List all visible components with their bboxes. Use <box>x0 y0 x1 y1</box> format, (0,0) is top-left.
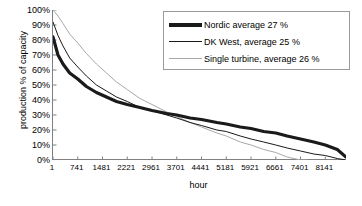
y-tick-label: 20% <box>16 126 50 135</box>
duration-curve-chart: production % of capacity 100%90%80%70%60… <box>0 0 362 206</box>
x-tick-label: 8141 <box>315 163 333 173</box>
x-tick-label: 7401 <box>291 163 309 173</box>
legend-label: Nordic average 27 % <box>203 20 288 30</box>
x-tick-label: 3701 <box>167 163 185 173</box>
x-tick-label: 2961 <box>142 163 160 173</box>
y-tick-label: 70% <box>16 51 50 60</box>
legend-item: Single turbine, average 26 % <box>167 50 346 67</box>
x-tick-label: 6661 <box>266 163 284 173</box>
x-tick-label: 741 <box>70 163 83 173</box>
y-tick-label: 80% <box>16 36 50 45</box>
x-axis-tick-labels: 1741148122212961370144415181592166617401… <box>52 163 352 177</box>
y-tick-label: 40% <box>16 96 50 105</box>
y-tick-label: 30% <box>16 111 50 120</box>
y-tick-label: 50% <box>16 81 50 90</box>
x-tick-label: 4441 <box>192 163 210 173</box>
legend-line-icon <box>167 54 203 64</box>
legend-item: DK West, average 25 % <box>167 33 346 50</box>
legend-line-icon <box>167 37 203 47</box>
y-tick-label: 60% <box>16 66 50 75</box>
y-axis-tick-labels: 100%90%80%70%60%50%40%30%20%10%0% <box>16 10 50 160</box>
x-tick-label: 1 <box>50 163 54 173</box>
x-tick-label: 2221 <box>117 163 135 173</box>
legend-line-icon <box>167 20 203 30</box>
y-tick-label: 90% <box>16 21 50 30</box>
legend-item: Nordic average 27 % <box>167 16 346 33</box>
legend-label: DK West, average 25 % <box>203 37 300 47</box>
x-tick-label: 1481 <box>93 163 111 173</box>
x-axis-title: hour <box>52 180 345 190</box>
x-tick-label: 5921 <box>241 163 259 173</box>
y-tick-label: 10% <box>16 141 50 150</box>
x-tick-label: 5181 <box>216 163 234 173</box>
legend-label: Single turbine, average 26 % <box>203 54 320 64</box>
y-tick-label: 0% <box>16 156 50 165</box>
chart-legend: Nordic average 27 %DK West, average 25 %… <box>163 11 350 70</box>
y-tick-label: 100% <box>16 6 50 15</box>
